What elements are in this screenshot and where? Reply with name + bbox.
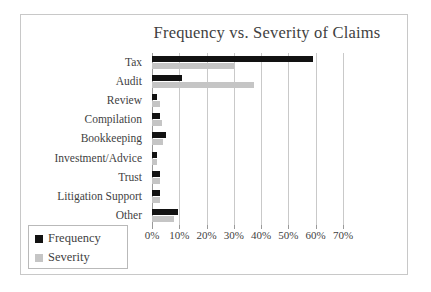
chart-legend: FrequencySeverity <box>28 225 128 269</box>
bar-group <box>152 149 343 168</box>
bar-severity <box>152 63 234 69</box>
legend-label: Frequency <box>48 231 101 246</box>
bar-group <box>152 110 343 129</box>
y-axis-label: Compilation <box>21 110 147 129</box>
y-axis-label: Litigation Support <box>21 187 147 206</box>
y-axis-label: Investment/Advice <box>21 149 147 168</box>
chart-container: Frequency vs. Severity of Claims TaxAudi… <box>20 14 408 275</box>
bar-severity <box>152 82 254 88</box>
gridline-70% <box>343 53 344 225</box>
x-axis-tick-label: 60% <box>306 229 326 241</box>
y-axis-label: Other <box>21 206 147 225</box>
y-axis-label: Tax <box>21 53 147 72</box>
bar-group <box>152 206 343 225</box>
bar-frequency <box>152 190 160 196</box>
bar-frequency <box>152 209 178 215</box>
x-axis-tick-label: 0% <box>145 229 160 241</box>
bar-group <box>152 129 343 148</box>
bars-group <box>152 53 343 225</box>
bar-severity <box>152 139 163 145</box>
bar-group <box>152 72 343 91</box>
bar-group <box>152 168 343 187</box>
y-axis-label: Audit <box>21 72 147 91</box>
bar-severity <box>152 178 160 184</box>
bar-severity <box>152 101 160 107</box>
bar-severity <box>152 120 162 126</box>
bar-group <box>152 91 343 110</box>
bar-severity <box>152 197 160 203</box>
y-axis-label: Bookkeeping <box>21 129 147 148</box>
bar-frequency <box>152 152 157 158</box>
bar-frequency <box>152 132 166 138</box>
bar-frequency <box>152 75 182 81</box>
y-axis-label: Trust <box>21 168 147 187</box>
y-axis-label: Review <box>21 91 147 110</box>
x-axis-tick-label: 70% <box>333 229 353 241</box>
x-axis-tick-label: 50% <box>278 229 298 241</box>
plot-area <box>152 53 343 225</box>
x-axis-tick-label: 10% <box>169 229 189 241</box>
legend-item: Severity <box>35 248 127 267</box>
y-axis-category-labels: TaxAuditReviewCompilationBookkeepingInve… <box>21 53 147 225</box>
x-axis-tick-label: 30% <box>224 229 244 241</box>
bar-frequency <box>152 94 157 100</box>
legend-swatch-icon <box>35 254 43 262</box>
bar-frequency <box>152 171 160 177</box>
bar-frequency <box>152 113 160 119</box>
legend-swatch-icon <box>35 235 43 243</box>
bar-group <box>152 53 343 72</box>
legend-item: Frequency <box>35 229 127 248</box>
x-axis-tick-labels: 0%10%20%30%40%50%60%70% <box>152 229 343 245</box>
x-axis-tick-label: 20% <box>196 229 216 241</box>
bar-severity <box>152 216 174 222</box>
bar-severity <box>152 159 157 165</box>
chart-title: Frequency vs. Severity of Claims <box>131 23 403 43</box>
bar-frequency <box>152 56 313 62</box>
x-axis-tick-label: 40% <box>251 229 271 241</box>
legend-label: Severity <box>48 250 90 265</box>
bar-group <box>152 187 343 206</box>
